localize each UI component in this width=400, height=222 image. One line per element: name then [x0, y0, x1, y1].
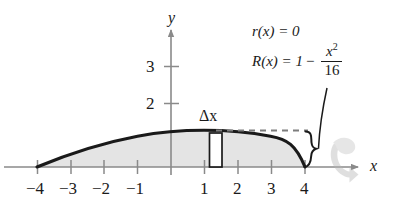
x-tick-label-3: 3	[267, 180, 276, 197]
x-tick-label-minus2: −2	[92, 180, 110, 197]
x-tick-label-4: 4	[300, 180, 309, 197]
fraction-numerator: x2	[323, 42, 341, 60]
x-tick-label-minus3: −3	[59, 180, 77, 197]
outer-radius-fraction: x2 16	[321, 42, 342, 79]
x-tick-label-minus1: −1	[126, 180, 144, 197]
y-tick-label-2: 2	[146, 95, 155, 112]
rotation-arrow-icon	[331, 138, 359, 183]
inner-radius-text: r(x) = 0	[252, 22, 300, 41]
region-height-brace	[305, 132, 317, 168]
x-tick-label-1: 1	[200, 180, 209, 197]
representative-rectangle	[210, 133, 223, 167]
fraction-denominator: 16	[321, 63, 342, 79]
radius-formulas: r(x) = 0 R(x) = 1 − x2 16	[252, 22, 342, 80]
delta-x-label: Δx	[199, 108, 217, 124]
x-tick-label-2: 2	[233, 180, 242, 197]
outer-radius-formula: R(x) = 1 − x2 16	[252, 43, 342, 80]
solid-of-revolution-figure: y x 3 2 −4 −3 −2 −1 1 2 3 4 Δx r(x) = 0 …	[0, 0, 400, 222]
formula-leader-line	[319, 88, 328, 148]
numerator-exponent: 2	[333, 41, 338, 52]
outer-radius-prefix: R(x) = 1	[252, 52, 303, 71]
outer-radius-operator: −	[306, 52, 314, 71]
inner-radius-formula: r(x) = 0	[252, 22, 342, 41]
y-axis-label: y	[168, 10, 175, 26]
x-axis-label: x	[370, 158, 377, 174]
x-tick-label-minus4: −4	[26, 180, 44, 197]
y-tick-label-3: 3	[146, 58, 155, 75]
numerator-variable: x	[326, 43, 333, 59]
